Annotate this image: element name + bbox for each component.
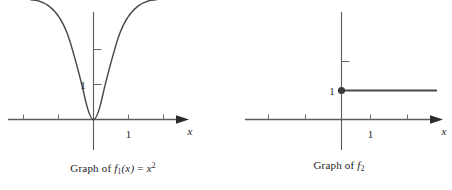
- figure-panel-step: 1 1 x Graph of f2: [226, 0, 452, 190]
- x-axis-label: x: [187, 125, 193, 137]
- plot-f1: 1 1 x: [0, 0, 226, 158]
- x-axis-arrowhead: [430, 115, 443, 124]
- caption-f2-prefix: Graph of: [313, 159, 357, 171]
- caption-f1-equals: =: [134, 162, 146, 174]
- figure-panel-parabola: 1 1 x Graph of f1(x) = x2: [0, 0, 226, 190]
- caption-f2: Graph of f2: [226, 159, 452, 175]
- caption-f1-argument: (x): [122, 162, 135, 174]
- plot-f2: 1 1 x: [226, 0, 452, 158]
- caption-f1: Graph of f1(x) = x2: [0, 159, 226, 178]
- x-axis-tick-label-1: 1: [368, 128, 374, 140]
- x-axis-tick-label-1: 1: [126, 128, 132, 140]
- math-figure: 1 1 x Graph of f1(x) = x2: [0, 0, 452, 190]
- caption-f2-subscript: 2: [361, 164, 365, 173]
- caption-f1-prefix: Graph of: [70, 162, 114, 174]
- caption-f1-expression-exponent: 2: [152, 161, 156, 170]
- x-axis-arrowhead: [176, 115, 189, 124]
- x-axis-label: x: [441, 125, 447, 137]
- y-axis-tick-label-1: 1: [329, 85, 335, 97]
- y-axis-tick-label-1: 1: [80, 79, 86, 91]
- closed-endpoint-dot: [338, 87, 345, 94]
